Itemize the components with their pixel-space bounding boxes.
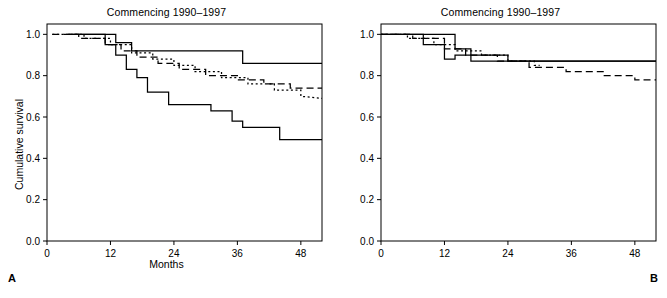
series-dashed <box>52 34 322 88</box>
panel-b: Commencing 1990–1997 0.00.20.40.60.81.00… <box>334 0 667 298</box>
series-dashed <box>381 34 656 79</box>
svg-text:12: 12 <box>439 248 451 259</box>
svg-text:0.6: 0.6 <box>360 112 374 123</box>
panel-a: Commencing 1990–1997 0.00.20.40.60.81.00… <box>0 0 333 298</box>
svg-text:36: 36 <box>566 248 578 259</box>
panel-b-plot: 0.00.20.40.60.81.0012243648 <box>334 0 667 298</box>
svg-text:0.4: 0.4 <box>26 153 40 164</box>
figure-root: Commencing 1990–1997 0.00.20.40.60.81.00… <box>0 0 667 298</box>
panel-b-letter: B <box>650 272 658 284</box>
svg-text:0: 0 <box>378 248 384 259</box>
svg-text:1.0: 1.0 <box>360 29 374 40</box>
series-solid-lower <box>68 34 322 139</box>
svg-text:48: 48 <box>629 248 641 259</box>
svg-text:1.0: 1.0 <box>26 29 40 40</box>
panel-a-x-axis-label: Months <box>0 258 333 270</box>
svg-text:24: 24 <box>502 248 514 259</box>
svg-text:0.0: 0.0 <box>360 236 374 247</box>
svg-text:0.4: 0.4 <box>360 153 374 164</box>
panel-a-y-axis-label: Cumulative survival <box>13 99 25 190</box>
panel-a-plot: 0.00.20.40.60.81.0012243648 <box>0 0 333 298</box>
series-solid-upper <box>68 34 322 63</box>
svg-text:0.0: 0.0 <box>26 236 40 247</box>
svg-text:0.6: 0.6 <box>26 112 40 123</box>
panel-a-letter: A <box>8 272 16 284</box>
svg-text:0.8: 0.8 <box>26 70 40 81</box>
svg-text:0.2: 0.2 <box>26 194 40 205</box>
svg-text:0.8: 0.8 <box>360 70 374 81</box>
series-dotted <box>52 34 322 98</box>
svg-text:0.2: 0.2 <box>360 194 374 205</box>
